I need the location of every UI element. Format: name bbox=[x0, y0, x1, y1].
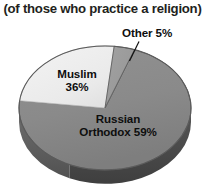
slice-label-muslim: Muslim 36% bbox=[40, 68, 114, 93]
pie-slices bbox=[19, 46, 191, 170]
slice-label-orthodox-line1: Russian bbox=[64, 113, 172, 126]
slice-label-other-text: Other 5% bbox=[122, 26, 172, 39]
chart-canvas: (of those who practice a religion) bbox=[0, 0, 205, 190]
slice-label-muslim-line2: 36% bbox=[40, 81, 114, 94]
pie-chart-graphic bbox=[0, 0, 205, 190]
slice-label-russian-orthodox: Russian Orthodox 59% bbox=[64, 113, 172, 138]
slice-label-muslim-line1: Muslim bbox=[40, 68, 114, 81]
slice-label-orthodox-line2: Orthodox 59% bbox=[64, 126, 172, 139]
slice-label-other: Other 5% bbox=[122, 27, 172, 40]
